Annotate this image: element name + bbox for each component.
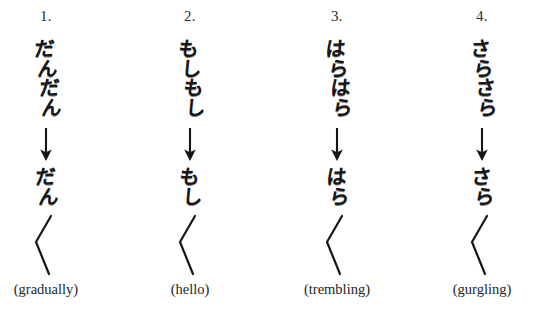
- kana-glyph: ら: [331, 98, 352, 118]
- kana-glyph: し: [181, 187, 202, 207]
- kana-glyph: ら: [328, 187, 349, 207]
- gloss-label-4: (gurgling): [414, 281, 544, 298]
- kana-glyph: ん: [37, 187, 58, 207]
- kunojiten-iteration-mark-icon-2: [122, 214, 258, 276]
- example-column-1: 1. だ ん だ ん だ ん (gradually): [0, 0, 114, 310]
- kana-glyph: し: [184, 98, 205, 118]
- gloss-label-1: (gradually): [0, 281, 114, 298]
- full-form-kana-4: さ ら さ ら: [414, 40, 544, 118]
- example-column-2: 2. も し も し も し (hello): [122, 0, 258, 310]
- example-column-4: 4. さ ら さ ら さ ら (gurgling): [414, 0, 544, 310]
- kunojiten-iteration-mark-icon-3: [269, 214, 405, 276]
- short-form-kana-1: だ ん: [0, 168, 114, 207]
- gloss-label-2: (hello): [122, 281, 258, 298]
- kana-glyph: ら: [473, 187, 494, 207]
- gloss-label-3: (trembling): [269, 281, 405, 298]
- column-number-1: 1.: [0, 8, 114, 25]
- full-form-kana-2: も し も し: [122, 40, 258, 118]
- full-form-kana-1: だ ん だ ん: [0, 40, 114, 118]
- kana-glyph: ん: [40, 98, 61, 118]
- column-number-2: 2.: [122, 8, 258, 25]
- column-number-4: 4.: [414, 8, 544, 25]
- kana-glyph: ら: [476, 98, 497, 118]
- down-arrow-icon-1: [0, 128, 114, 162]
- short-form-kana-3: は ら: [269, 168, 405, 207]
- short-form-kana-2: も し: [122, 168, 258, 207]
- kunojiten-iteration-mark-icon-1: [0, 214, 114, 276]
- short-form-kana-4: さ ら: [414, 168, 544, 207]
- down-arrow-icon-2: [122, 128, 258, 162]
- down-arrow-icon-3: [269, 128, 405, 162]
- kana-iteration-mark-figure: 1. だ ん だ ん だ ん (gradually) 2. も: [0, 0, 544, 310]
- kunojiten-iteration-mark-icon-4: [414, 214, 544, 276]
- column-number-3: 3.: [269, 8, 405, 25]
- down-arrow-icon-4: [414, 128, 544, 162]
- full-form-kana-3: は ら は ら: [269, 40, 405, 118]
- example-column-3: 3. は ら は ら は ら (trembling): [269, 0, 405, 310]
